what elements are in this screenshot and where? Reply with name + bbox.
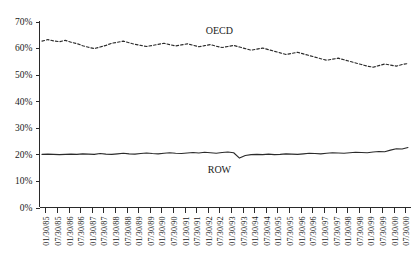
y-tick-label: 40%	[15, 97, 33, 107]
x-tick-label: 01/30/00	[391, 217, 400, 246]
x-tick-label: 07/30/90	[170, 217, 179, 246]
x-tick-label: 07/30/88	[124, 217, 133, 246]
x-tick-label: 07/30/89	[147, 217, 156, 246]
x-tick-label: 01/30/98	[344, 217, 353, 246]
series-line-row	[42, 147, 408, 158]
x-tick-label: 07/30/97	[333, 217, 342, 246]
x-tick-label: 01/30/94	[251, 217, 260, 246]
x-tick-label: 01/30/92	[205, 217, 214, 246]
x-tick-label: 07/30/00	[402, 217, 411, 246]
y-tick-label: 10%	[15, 176, 33, 186]
y-tick-label: 70%	[15, 17, 33, 27]
x-tick-label: 01/30/86	[66, 217, 75, 246]
x-tick-label: 07/30/85	[54, 217, 63, 246]
y-tick-labels: 0%10%20%30%40%50%60%70%	[15, 17, 33, 213]
x-tick-label: 07/30/99	[379, 217, 388, 246]
x-tick-label: 01/30/99	[367, 217, 376, 246]
x-tick-label: 01/30/89	[135, 217, 144, 246]
y-tick-label: 60%	[15, 43, 33, 53]
y-tick-label: 50%	[15, 70, 33, 80]
x-tick-marks	[46, 208, 406, 213]
y-axis-group: 0%10%20%30%40%50%60%70%	[15, 17, 39, 213]
y-tick-label: 30%	[15, 123, 33, 133]
x-tick-label: 01/30/95	[274, 217, 283, 246]
series-label-row: ROW	[208, 164, 232, 175]
x-tick-label: 07/30/86	[77, 217, 86, 246]
line-chart: 0%10%20%30%40%50%60%70% 01/30/8507/30/85…	[0, 0, 420, 271]
x-tick-label: 07/30/95	[286, 217, 295, 246]
x-tick-label: 01/30/90	[158, 217, 167, 246]
x-tick-label: 01/30/96	[298, 217, 307, 246]
x-tick-label: 07/30/93	[240, 217, 249, 246]
x-axis-group: 01/30/8507/30/8501/30/8607/30/8601/30/87…	[40, 208, 412, 246]
x-tick-label: 07/30/87	[100, 217, 109, 246]
y-tick-label: 20%	[15, 150, 33, 160]
x-tick-label: 01/30/88	[112, 217, 121, 246]
series-label-oecd: OECD	[206, 25, 233, 36]
x-tick-label: 07/30/92	[216, 217, 225, 246]
x-tick-label: 07/30/94	[263, 217, 272, 246]
x-tick-label: 01/30/91	[182, 217, 191, 246]
chart-container: 0%10%20%30%40%50%60%70% 01/30/8507/30/85…	[0, 0, 420, 271]
y-tick-marks	[36, 23, 40, 209]
x-tick-label: 07/30/98	[356, 217, 365, 246]
x-tick-label: 01/30/93	[228, 217, 237, 246]
x-tick-label: 01/30/97	[321, 217, 330, 246]
x-tick-label: 07/30/91	[193, 217, 202, 246]
y-tick-label: 0%	[20, 203, 33, 213]
series-line-oecd	[42, 40, 408, 68]
series-group	[42, 40, 408, 159]
x-tick-label: 01/30/87	[89, 217, 98, 246]
x-tick-label: 07/30/96	[309, 217, 318, 246]
x-tick-label: 01/30/85	[42, 217, 51, 246]
x-tick-labels: 01/30/8507/30/8501/30/8607/30/8601/30/87…	[42, 217, 411, 246]
